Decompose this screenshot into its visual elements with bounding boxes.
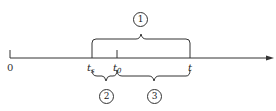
brace-1: [92, 34, 190, 58]
tick-label-ts-sub: s: [91, 67, 95, 75]
brace-3-label: 3: [147, 89, 162, 104]
brace-1-label: 1: [133, 12, 148, 27]
origin-label: 0: [7, 62, 13, 73]
tick-label-ts: ts: [87, 63, 95, 75]
brace-2-label: 2: [99, 89, 114, 104]
axis-arrow-icon: [266, 56, 274, 61]
tick-label-t0: t0: [113, 63, 122, 75]
brace-3: [117, 70, 190, 81]
timeline-diagram: 0 ts t0 t 1 2 3: [0, 0, 276, 111]
tick-label-t-main: t: [188, 62, 192, 73]
tick-label-t0-sub: 0: [117, 67, 121, 75]
tick-label-t: t: [188, 63, 192, 73]
